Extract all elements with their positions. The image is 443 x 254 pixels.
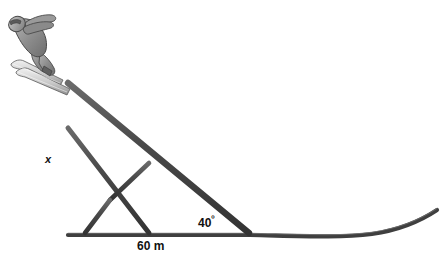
ski-jumper-figure: [6, 14, 70, 95]
truss-structure: [68, 83, 249, 234]
degree-symbol: º: [211, 214, 214, 224]
ski-jump-diagram: x 40º 60 m: [0, 0, 443, 254]
diagram-canvas: [0, 0, 443, 254]
truss-diagonal-short: [110, 163, 149, 200]
span-label-60-m: 60 m: [137, 239, 164, 253]
height-label-x: x: [45, 153, 51, 165]
angle-label-40-degrees: 40º: [198, 216, 215, 230]
angle-value: 40: [198, 216, 211, 230]
truss-slope-chord: [68, 83, 249, 233]
truss-diagonal-brace: [85, 200, 110, 233]
